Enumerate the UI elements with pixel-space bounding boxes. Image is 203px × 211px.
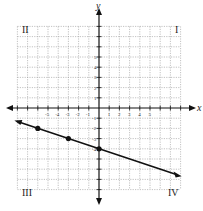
quadrant-ii-label: II [22,24,29,35]
x-axis-left-arrow-icon [6,105,13,111]
data-point [96,146,101,151]
x-tick-label: -3 [65,112,70,117]
x-tick-label: -1 [86,112,91,117]
y-tick-label: 3 [94,75,97,80]
x-tick-label: -4 [55,112,60,117]
line-segment [17,122,175,175]
y-tick-label: -3 [92,137,97,142]
x-tick-label: 4 [138,112,141,117]
quadrant-iii-label: III [22,187,32,198]
y-tick-label: -1 [92,116,97,121]
line-right-arrow-icon [174,172,182,178]
x-tick-label: -2 [76,112,81,117]
axes [6,8,196,205]
quadrant-iv-label: IV [168,187,179,198]
quadrant-i-label: I [175,24,178,35]
x-tick-label: 3 [128,112,131,117]
y-tick-label: 2 [94,86,97,91]
y-axis-label: y [95,0,101,11]
data-point [66,136,71,141]
line-left-arrow-icon [14,120,22,125]
x-tick-label: -5 [45,112,50,117]
x-tick-label: 1 [108,112,111,117]
y-tick-label: 1 [94,96,97,101]
x-axis-right-arrow-icon [189,105,196,111]
y-tick-label: 5 [94,55,97,60]
x-tick-label: 2 [118,112,121,117]
y-axis-down-arrow-icon [96,198,102,205]
data-point [35,126,40,131]
x-tick-label: 5 [149,112,152,117]
y-tick-label: -2 [92,126,97,131]
y-tick-label: 4 [94,65,97,70]
x-axis-label: x [196,102,202,113]
coordinate-plane: -5-4-3-2-11234554321-1-2-3-4 x y I II II… [0,0,203,211]
